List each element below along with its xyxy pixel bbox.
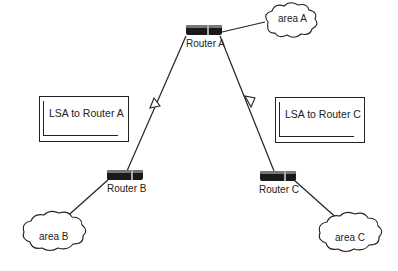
router-c-label: Router C <box>259 184 299 195</box>
area-a-label: area A <box>278 13 307 24</box>
lsa-box-router-c: LSA to Router C <box>275 97 365 143</box>
link-routerA-areaA <box>222 22 265 32</box>
lsa-box-router-a: LSA to Router A <box>39 96 129 142</box>
area-c-label: area C <box>335 232 365 243</box>
link-routerC-areaC <box>294 180 340 221</box>
router-a-label: Router A <box>186 38 225 49</box>
router-b-icon <box>107 170 143 180</box>
router-b-label: Router B <box>107 183 146 194</box>
router-a-icon <box>186 25 222 35</box>
link-routerA-routerC <box>220 36 274 171</box>
lsa-label-router-c: LSA to Router C <box>285 108 361 120</box>
router-c-icon <box>260 171 296 181</box>
lsa-label-router-a: LSA to Router A <box>49 107 124 119</box>
area-b-label: area B <box>39 231 68 242</box>
